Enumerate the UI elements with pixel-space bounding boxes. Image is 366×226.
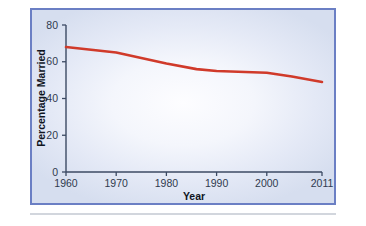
x-tick-label: 1960 <box>54 177 78 189</box>
x-axis-title: Year <box>183 190 205 202</box>
y-axis-ticks: 020406080 <box>46 19 66 178</box>
y-tick-label: 0 <box>52 166 58 178</box>
x-axis-ticks: 196019701980199020002011 <box>54 172 333 189</box>
chart-figure-box: 020406080 196019701980199020002011 Year … <box>30 8 336 205</box>
x-tick-label: 2011 <box>311 177 334 189</box>
y-tick-label: 40 <box>46 92 58 104</box>
y-tick-label: 80 <box>46 19 58 31</box>
y-axis-title: Percentage Married <box>35 49 47 146</box>
y-tick-label: 20 <box>46 129 58 141</box>
x-tick-label: 1990 <box>205 177 229 189</box>
x-tick-label: 1970 <box>105 177 129 189</box>
chart-axes <box>66 25 322 172</box>
x-tick-label: 1980 <box>155 177 179 189</box>
y-tick-label: 60 <box>46 55 58 67</box>
data-series-line <box>66 47 322 82</box>
x-tick-label: 2000 <box>255 177 279 189</box>
line-chart: 020406080 196019701980199020002011 Year … <box>32 10 338 207</box>
bottom-separator-rule <box>30 213 336 215</box>
